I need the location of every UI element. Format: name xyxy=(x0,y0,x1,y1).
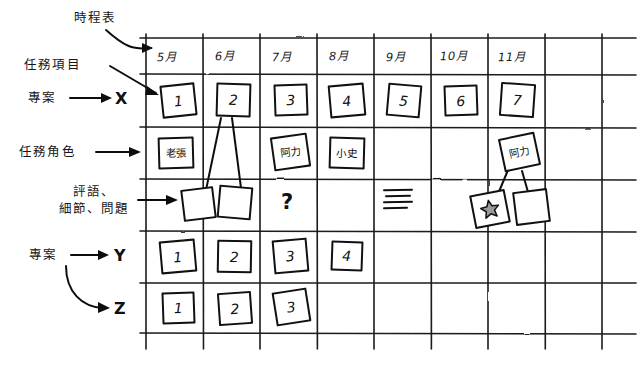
task-note-y-1[interactable]: 1 xyxy=(159,238,198,274)
annotation-project-x: 專案 xyxy=(28,90,56,106)
task-note-x-7[interactable]: 7 xyxy=(499,82,536,118)
task-note-z-3[interactable]: 3 xyxy=(272,287,312,326)
text-line xyxy=(383,207,408,209)
task-note-y-2[interactable]: 2 xyxy=(217,240,253,274)
axis-letter-z: Z xyxy=(114,299,126,318)
task-note-x-6[interactable]: 6 xyxy=(443,84,478,116)
task-note-label: 2 xyxy=(230,249,240,263)
comment-note-left[interactable] xyxy=(180,186,217,222)
task-note-label: 5 xyxy=(399,93,410,108)
role-note-xiaoshi[interactable]: 小史 xyxy=(329,137,366,170)
task-note-label: 1 xyxy=(174,301,184,315)
text-lines-note[interactable] xyxy=(383,189,415,213)
question-mark-note[interactable]: ? xyxy=(281,190,293,214)
task-note-x-3[interactable]: 3 xyxy=(273,83,308,116)
plain-comment-note[interactable] xyxy=(512,188,551,226)
task-note-x-5[interactable]: 5 xyxy=(386,83,423,119)
task-note-label: 1 xyxy=(173,93,184,108)
text-line xyxy=(385,195,411,197)
annotation-comments: 評語、 細節、問題 xyxy=(48,183,140,217)
annotation-task-role: 任務角色 xyxy=(19,144,76,160)
task-note-x-2[interactable]: 2 xyxy=(216,83,252,118)
annotation-comments-line1: 評語、 xyxy=(48,183,140,200)
role-note-label: 阿力 xyxy=(279,145,301,158)
task-note-y-4[interactable]: 4 xyxy=(330,240,363,271)
task-note-z-1[interactable]: 1 xyxy=(161,291,195,324)
axis-letter-x: X xyxy=(115,89,128,108)
axis-letter-y: Y xyxy=(114,246,126,265)
column-header-8: 8月 xyxy=(329,47,349,63)
task-note-label: 7 xyxy=(512,93,522,108)
task-note-label: 2 xyxy=(230,301,240,316)
role-note-laozhang[interactable]: 老張 xyxy=(158,137,195,170)
starred-comment-note[interactable] xyxy=(469,189,511,229)
annotation-task-item: 任務項目 xyxy=(24,57,81,73)
text-line xyxy=(383,201,413,204)
text-line xyxy=(383,189,413,192)
annotation-schedule: 時程表 xyxy=(74,10,117,26)
task-note-label: 3 xyxy=(286,299,297,314)
task-note-x-4[interactable]: 4 xyxy=(328,82,367,118)
task-note-label: 3 xyxy=(286,93,296,107)
diagram-canvas: 5月 6月 7月 8月 9月 10月 11月 時程表 任務項目 專案 任務角色 … xyxy=(0,0,642,366)
task-note-label: 4 xyxy=(342,93,353,108)
column-header-7: 7月 xyxy=(272,48,292,64)
task-note-label: 4 xyxy=(342,249,352,263)
column-header-10: 10月 xyxy=(440,47,468,64)
column-header-5: 5月 xyxy=(157,48,177,64)
task-note-z-2[interactable]: 2 xyxy=(217,291,253,326)
column-header-6: 6月 xyxy=(215,47,235,63)
role-note-label: 阿力 xyxy=(508,145,531,160)
task-note-label: 6 xyxy=(456,93,466,107)
role-note-label: 小史 xyxy=(336,147,357,158)
column-header-11: 11月 xyxy=(498,48,526,65)
arrow-project-z xyxy=(66,266,103,308)
column-header-9: 9月 xyxy=(386,48,406,64)
comment-note-right[interactable] xyxy=(217,185,254,221)
annotation-project-y: 專案 xyxy=(29,247,57,263)
task-note-x-1[interactable]: 1 xyxy=(159,82,197,118)
role-note-ali-july[interactable]: 阿力 xyxy=(270,133,311,172)
task-note-label: 2 xyxy=(229,93,239,107)
annotation-comments-line2: 細節、問題 xyxy=(48,200,140,217)
task-note-label: 3 xyxy=(285,249,296,264)
task-note-label: 1 xyxy=(173,249,184,264)
task-note-y-3[interactable]: 3 xyxy=(272,238,310,275)
star-icon xyxy=(476,195,504,223)
role-note-label: 老張 xyxy=(165,147,186,158)
